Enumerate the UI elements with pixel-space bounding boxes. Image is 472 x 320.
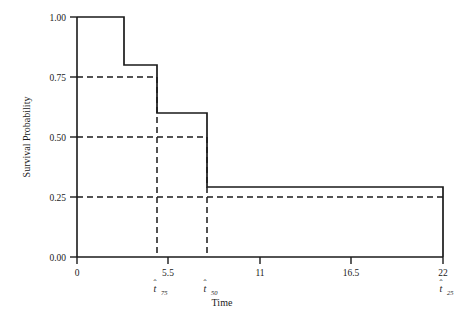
- annotation-t50: ̂ t 50: [203, 279, 218, 296]
- t25-hat-icon: ̂: [439, 279, 443, 281]
- t75-subscript: 75: [161, 289, 168, 296]
- x-tick-labels: 0 5.5 11 16.5 22: [75, 268, 448, 278]
- t50-base: t: [204, 283, 207, 294]
- t25-subscript: 25: [447, 289, 454, 296]
- x-tick-marks: [77, 257, 443, 264]
- t50-hat-icon: ̂: [203, 279, 207, 281]
- y-tick-label-0-50: 0.50: [49, 133, 66, 143]
- x-axis-title: Time: [212, 297, 233, 308]
- annotation-t75: ̂ t 75: [153, 279, 168, 296]
- x-tick-label-11: 11: [255, 268, 264, 278]
- annotation-t25: ̂ t 25: [439, 279, 454, 296]
- survival-probability-step-plot: 1.00 0.75 0.50 0.25 0.00 0 5.5 11 16.5 2…: [0, 0, 472, 320]
- y-tick-label-0-25: 0.25: [49, 193, 66, 203]
- survival-chart: 1.00 0.75 0.50 0.25 0.00 0 5.5 11 16.5 2…: [0, 0, 472, 320]
- x-tick-label-5-5: 5.5: [162, 268, 174, 278]
- y-tick-label-1-00: 1.00: [49, 13, 66, 23]
- t50-subscript: 50: [211, 289, 218, 296]
- x-tick-label-22: 22: [438, 268, 448, 278]
- vertical-reference-lines: [157, 77, 207, 257]
- y-tick-label-0-75: 0.75: [49, 73, 66, 83]
- y-tick-label-0-00: 0.00: [49, 253, 66, 263]
- x-tick-label-16-5: 16.5: [343, 268, 360, 278]
- x-tick-label-0: 0: [75, 268, 80, 278]
- t75-base: t: [154, 283, 157, 294]
- horizontal-reference-lines: [77, 77, 443, 197]
- quantile-annotations: ̂ t 75 ̂ t 50 ̂ t 25: [153, 279, 454, 296]
- y-axis-title: Survival Probability: [21, 97, 32, 178]
- t75-hat-icon: ̂: [153, 279, 157, 281]
- y-tick-marks: [70, 17, 77, 257]
- t25-base: t: [440, 283, 443, 294]
- y-tick-labels: 1.00 0.75 0.50 0.25 0.00: [49, 13, 66, 263]
